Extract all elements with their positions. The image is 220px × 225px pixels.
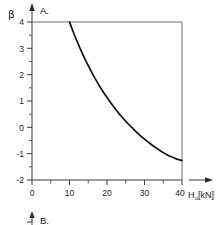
y-tick-label: 3 [19,44,24,54]
x-axis-title: H [188,190,195,200]
panel-label-b: B. [40,215,49,225]
y-tick-label: -1 [16,149,24,159]
y-axis-title: β [8,8,15,20]
y-tick-label: 4 [19,17,24,27]
x-tick-label: 30 [140,188,150,198]
y-tick-label: -2 [16,175,24,185]
y-tick-label: 1 [19,96,24,106]
y-tick-label: 0 [19,123,24,133]
x-tick-label: 0 [30,188,35,198]
x-tick-label: 40 [175,188,185,198]
panel-label-a: A. [40,5,49,16]
x-axis-unit: [kN] [198,190,214,200]
figure-panel-a: 4 3 2 1 0 -1 -2 0 10 20 30 40 β H o [kN]… [0,0,220,225]
chart-svg: 4 3 2 1 0 -1 -2 0 10 20 30 40 β H o [kN]… [0,0,220,225]
x-tick-label: 10 [65,188,75,198]
y-tick-label: 2 [19,70,24,80]
x-tick-label: 20 [102,188,112,198]
